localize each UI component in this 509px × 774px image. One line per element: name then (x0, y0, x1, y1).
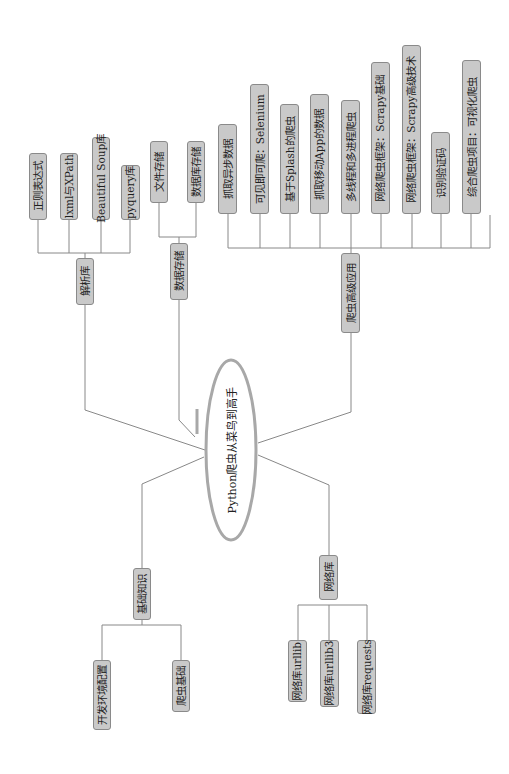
leaf-label: 网络库urllib (292, 642, 303, 701)
leaf-label: 识别验证码 (435, 148, 446, 198)
leaf-advanced-multithread[interactable]: 多线程和多进程爬虫 (341, 100, 360, 214)
root-label: Python爬虫从菜鸟到高手 (223, 387, 239, 514)
leaf-storage-db[interactable]: 数据库存储 (187, 141, 205, 203)
branch-network[interactable]: 网络库 (319, 555, 338, 600)
leaf-parsing-regex[interactable]: 正则表达式 (29, 153, 47, 220)
leaf-label: 开发环境配置 (97, 665, 108, 725)
branch-advanced-label: 爬虫高级应用 (345, 263, 356, 323)
leaf-label: 抓取移动App的数据 (314, 108, 325, 199)
leaf-label: 抓取异步数据 (222, 139, 233, 199)
leaf-label: 文件存储 (154, 152, 165, 192)
leaf-advanced-scrapy-advanced[interactable]: 网络爬虫框架：Scrapy高级技术 (402, 45, 421, 214)
leaf-label: 网络爬虫框架：Scrapy基础 (375, 74, 386, 201)
leaf-label: 网络库urllib3 (324, 641, 335, 706)
leaf-label: lxml与XPath (64, 155, 75, 219)
leaf-label: 数据库存储 (191, 147, 202, 197)
branch-storage[interactable]: 数据存储 (170, 243, 188, 300)
leaf-advanced-captcha[interactable]: 识别验证码 (431, 132, 450, 214)
leaf-advanced-selenium[interactable]: 可见即可爬：Selenium (250, 84, 269, 214)
leaf-label: 基于Splash的爬虫 (284, 116, 295, 202)
leaf-label: 综合爬虫项目：可视化爬虫 (466, 77, 477, 197)
leaf-label: 爬虫基础 (176, 666, 187, 706)
branch-network-label: 网络库 (323, 563, 334, 593)
leaf-label: pyquery库 (125, 166, 136, 219)
leaf-advanced-visual-crawler[interactable]: 综合爬虫项目：可视化爬虫 (462, 60, 481, 214)
leaf-label: 网络库requests (361, 639, 372, 715)
leaf-advanced-scrapy-basic[interactable]: 网络爬虫框架：Scrapy基础 (371, 62, 390, 214)
leaf-label: 多线程和多进程爬虫 (345, 112, 356, 202)
leaf-network-urllib[interactable]: 网络库urllib (288, 640, 307, 702)
leaf-label: 正则表达式 (33, 162, 44, 212)
branch-parsing-label: 解析库 (80, 267, 91, 297)
branch-advanced[interactable]: 爬虫高级应用 (341, 253, 360, 333)
leaf-advanced-async[interactable]: 抓取异步数据 (218, 124, 237, 214)
leaf-parsing-pyquery[interactable]: pyquery库 (121, 165, 140, 220)
leaf-label: 可见即可爬：Selenium (254, 94, 265, 204)
root-node[interactable]: Python爬虫从菜鸟到高手 (206, 360, 256, 540)
branch-basics-label: 基础知识 (137, 574, 148, 614)
leaf-label: Beautiful Soup库 (96, 134, 107, 223)
leaf-advanced-mobile[interactable]: 抓取移动App的数据 (310, 94, 329, 214)
branch-basics[interactable]: 基础知识 (133, 568, 151, 620)
branch-parsing[interactable]: 解析库 (76, 258, 94, 305)
leaf-basics-crawler[interactable]: 爬虫基础 (172, 660, 190, 712)
leaf-advanced-splash[interactable]: 基于Splash的爬虫 (280, 104, 299, 214)
branch-storage-label: 数据存储 (174, 252, 185, 292)
leaf-network-urllib3[interactable]: 网络库urllib3 (320, 640, 339, 707)
leaf-storage-file[interactable]: 文件存储 (150, 141, 168, 203)
leaf-parsing-lxml[interactable]: lxml与XPath (60, 153, 78, 220)
leaf-label: 网络爬虫框架：Scrapy高级技术 (406, 56, 417, 203)
leaf-basics-env[interactable]: 开发环境配置 (93, 660, 111, 730)
leaf-parsing-bs4[interactable]: Beautiful Soup库 (92, 137, 110, 220)
leaf-network-requests[interactable]: 网络库requests (357, 640, 376, 714)
mind-map: Python爬虫从菜鸟到高手 解析库 正则表达式 lxml与XPath Beau… (0, 0, 509, 774)
